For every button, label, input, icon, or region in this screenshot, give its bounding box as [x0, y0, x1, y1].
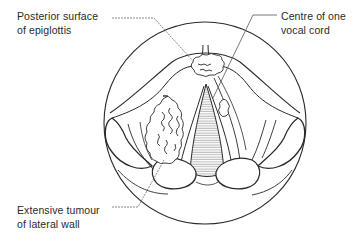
larynx-diagram: Posterior surface of epiglottis Centre o… — [0, 0, 361, 239]
label-vocal-line2: vocal cord — [281, 23, 346, 37]
tumour-nodule-right — [219, 99, 230, 116]
aryepiglottic-fold-left — [112, 66, 195, 118]
leader-line-epiglottis — [112, 18, 192, 60]
label-extensive-tumour: Extensive tumour of lateral wall — [17, 203, 100, 231]
label-posterior-surface-epiglottis: Posterior surface of epiglottis — [17, 9, 98, 37]
label-vocal-line1: Centre of one — [281, 9, 346, 23]
label-tumour-line2: of lateral wall — [17, 217, 100, 231]
right-lateral-fold — [258, 118, 305, 168]
aryepiglottic-fold-right — [218, 66, 298, 118]
label-epiglottis-line2: of epiglottis — [17, 23, 98, 37]
glottis-airway — [190, 84, 224, 177]
label-centre-vocal-cord: Centre of one vocal cord — [281, 9, 346, 37]
tumour-mass — [145, 96, 183, 164]
epiglottis-tumour — [191, 54, 224, 77]
label-epiglottis-line1: Posterior surface — [17, 9, 98, 23]
interarytenoid-line — [196, 182, 218, 185]
label-tumour-line1: Extensive tumour — [17, 203, 100, 217]
